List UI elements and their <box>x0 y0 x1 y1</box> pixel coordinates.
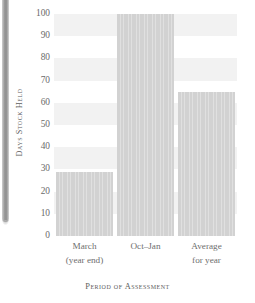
x-tick-label-line: March <box>54 240 115 254</box>
y-tick-label: 70 <box>24 76 50 85</box>
y-axis-title: Days Stock Held <box>15 75 24 171</box>
y-tick-label: 40 <box>24 142 50 151</box>
x-axis-tick-labels: March(year end)Oct–JanAveragefor year <box>54 240 237 274</box>
x-tick-label: Oct–Jan <box>115 240 176 254</box>
x-tick-label: March(year end) <box>54 240 115 267</box>
y-tick-label: 10 <box>24 209 50 218</box>
x-tick-label-line: Oct–Jan <box>115 240 176 254</box>
bar <box>117 14 175 236</box>
bar-chart-figure: Days Stock Held 0102030405060708090100 M… <box>0 0 255 303</box>
x-tick-label: Averagefor year <box>176 240 237 267</box>
y-axis-tick-labels: 0102030405060708090100 <box>24 14 50 236</box>
bar <box>56 172 114 236</box>
y-tick-label: 50 <box>24 120 50 129</box>
y-tick-label: 0 <box>24 231 50 240</box>
y-tick-label: 60 <box>24 98 50 107</box>
x-axis-title: Period of Assessment <box>0 282 255 291</box>
bar <box>178 92 236 236</box>
y-tick-label: 80 <box>24 54 50 63</box>
y-tick-label: 20 <box>24 187 50 196</box>
y-tick-label: 30 <box>24 165 50 174</box>
plot-area <box>54 14 237 236</box>
x-tick-label-line: for year <box>176 254 237 268</box>
x-tick-label-line: (year end) <box>54 254 115 268</box>
bar-series <box>54 14 237 236</box>
x-tick-label-line: Average <box>176 240 237 254</box>
y-tick-label: 90 <box>24 31 50 40</box>
page-spine-shadow <box>2 0 9 222</box>
y-tick-label: 100 <box>24 9 50 18</box>
